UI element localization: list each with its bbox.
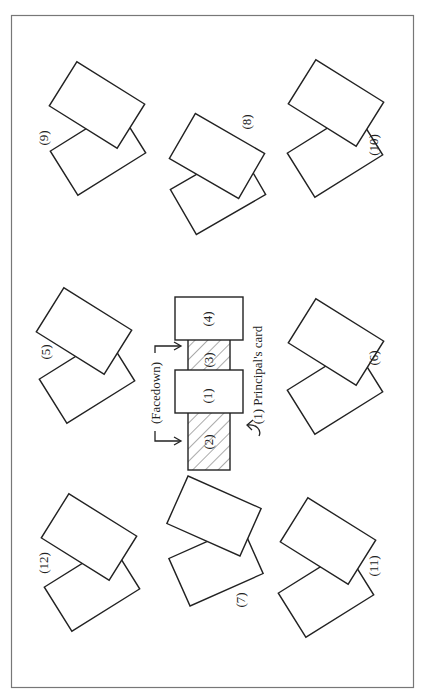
- label-card-1: (1): [200, 388, 215, 403]
- label-9: (9): [36, 130, 51, 145]
- card-pair-5: (5): [36, 288, 134, 423]
- card-pair-6: (6): [287, 299, 383, 434]
- label-card-4: (4): [200, 311, 215, 326]
- card-pair-12: (12): [36, 494, 140, 631]
- label-11: (11): [366, 555, 381, 576]
- card-pair-11: (11): [278, 498, 381, 637]
- label-12: (12): [36, 552, 51, 574]
- label-7: (7): [233, 592, 248, 607]
- card-pair-9: (9): [36, 62, 146, 195]
- label-card-3: (3): [201, 352, 216, 367]
- card-layout-diagram: (9) (8) (10) (5) (1) (2) (3) (4): [0, 0, 428, 691]
- card-pair-10: (10): [287, 60, 383, 197]
- card-pair-7: (7): [167, 476, 263, 608]
- label-card-2: (2): [201, 434, 216, 449]
- center-layout: (1) (2) (3) (4) (Facedown) (1) Principal…: [148, 297, 265, 470]
- label-6: (6): [366, 350, 381, 365]
- label-5: (5): [38, 344, 53, 359]
- facedown-label: (Facedown): [148, 362, 163, 424]
- label-8: (8): [239, 114, 254, 129]
- principal-label: (1) Principal's card: [250, 325, 265, 424]
- card-pair-8: (8): [169, 113, 265, 234]
- label-10: (10): [366, 134, 381, 156]
